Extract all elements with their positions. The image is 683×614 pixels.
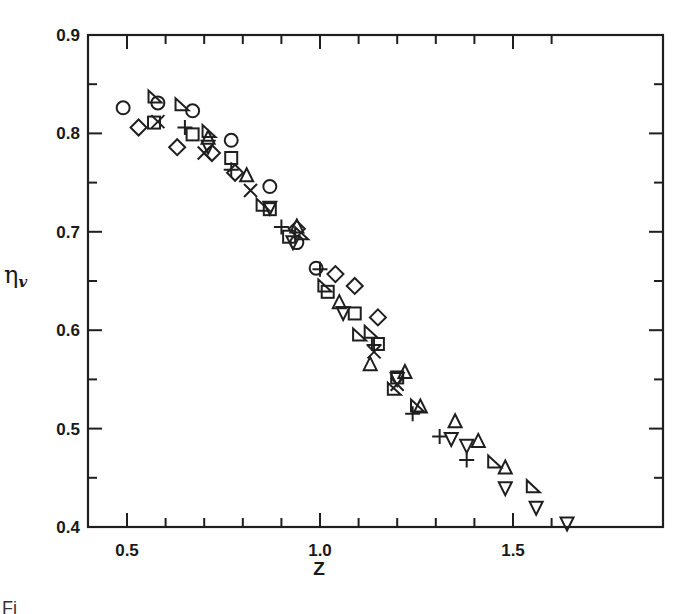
- x-tick-label: 1.5: [501, 541, 525, 560]
- data-point-triangle-left: [365, 326, 378, 338]
- data-point-circle: [263, 180, 276, 193]
- data-point-plus: [432, 429, 447, 444]
- data-point-diamond: [327, 266, 343, 282]
- data-point-diamond: [347, 278, 363, 294]
- data-point-triangle-down: [561, 518, 574, 531]
- x-axis-label: Z: [313, 558, 325, 579]
- data-point-plus: [274, 219, 289, 234]
- axis-ticks: [88, 35, 663, 527]
- x-tick-label: 0.5: [115, 541, 139, 560]
- plot-border: [88, 35, 663, 527]
- data-point-square: [349, 307, 361, 319]
- y-tick-label: 0.8: [56, 124, 80, 143]
- data-point-square: [225, 152, 237, 164]
- y-tick-labels: 0.40.50.60.70.80.9: [56, 26, 80, 537]
- data-point-triangle-down: [499, 482, 512, 495]
- data-point-circle: [117, 101, 130, 114]
- data-points: [117, 90, 574, 530]
- data-point-circle: [225, 134, 238, 147]
- scatter-chart: 0.51.01.5 0.40.50.60.70.80.9 Z ηv: [0, 0, 683, 614]
- data-point-diamond: [169, 139, 185, 155]
- y-tick-label: 0.7: [56, 223, 80, 242]
- data-point-triangle-up: [449, 414, 462, 427]
- figure-caption: Fi: [2, 598, 17, 614]
- y-tick-label: 0.5: [56, 420, 80, 439]
- data-point-triangle-up: [364, 357, 377, 370]
- data-point-x: [244, 184, 257, 197]
- data-point-triangle-down: [530, 502, 543, 515]
- data-point-diamond: [370, 309, 386, 325]
- data-point-plus: [405, 406, 420, 421]
- data-point-square: [187, 128, 199, 140]
- y-axis-label-subscript: v: [18, 273, 27, 291]
- data-point-triangle-left: [176, 98, 189, 110]
- y-axis-label-symbol: η: [4, 261, 18, 289]
- data-point-diamond: [131, 119, 147, 135]
- y-tick-label: 0.9: [56, 26, 80, 45]
- data-point-triangle-left: [488, 456, 501, 468]
- data-point-triangle-left: [527, 480, 540, 492]
- y-tick-label: 0.4: [56, 518, 80, 537]
- data-point-triangle-down: [445, 433, 458, 446]
- data-point-plus: [177, 120, 192, 135]
- plot-frame: [88, 35, 663, 527]
- y-axis-label: ηv: [4, 261, 27, 291]
- y-tick-label: 0.6: [56, 321, 80, 340]
